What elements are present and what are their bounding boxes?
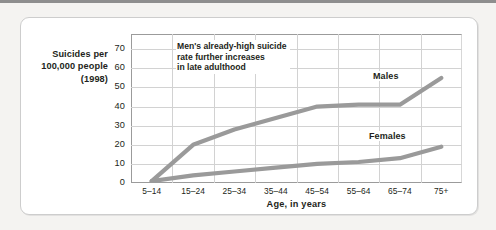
y-tick-label-70: 70 (103, 43, 125, 53)
figure-screenshot: Suicides per 100,000 people (1998) 01020… (0, 0, 496, 230)
series-line-females (152, 147, 442, 181)
x-tick-label-0: 5–14 (130, 186, 174, 196)
y-axis-title: Suicides per 100,000 people (1998) (22, 48, 108, 85)
y-tick-label-10: 10 (103, 158, 125, 168)
y-tick-label-40: 40 (103, 101, 125, 111)
x-tick-label-2: 25–34 (212, 186, 256, 196)
y-tick-label-50: 50 (103, 81, 125, 91)
x-tick-label-1: 15–24 (171, 186, 215, 196)
y-tick-label-60: 60 (103, 62, 125, 72)
series-label-females: Females (366, 131, 409, 141)
x-tick-label-3: 35–44 (254, 186, 298, 196)
y-tick-label-0: 0 (103, 177, 125, 187)
x-axis-title: Age, in years (131, 199, 462, 209)
chart-annotation: Men's already-high suicide rate further … (176, 40, 290, 74)
x-tick-label-5: 55–64 (337, 186, 381, 196)
y-tick-label-30: 30 (103, 120, 125, 130)
series-label-males: Males (370, 71, 402, 81)
x-tick-label-4: 45–54 (295, 186, 339, 196)
x-tick-label-7: 75+ (419, 186, 463, 196)
y-tick-label-20: 20 (103, 139, 125, 149)
x-tick-label-6: 65–74 (378, 186, 422, 196)
